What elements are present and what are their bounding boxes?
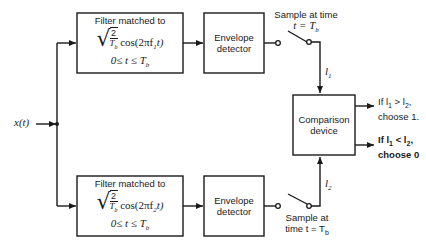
top-filter-range: 0≤ t ≤ Tb <box>77 55 183 71</box>
top-filter-title: Filter matched to <box>77 15 183 26</box>
bottom-switch-blade <box>288 194 307 204</box>
output-choose-0: If l1 < l2, choose 0 <box>378 134 419 160</box>
input-label: x(t) <box>14 117 29 128</box>
output-choose-1: If l1 > l2, choose 1. <box>378 96 419 122</box>
bottom-filter-block: Filter matched to √2Tb cos(2πf2t) 0≤ t ≤… <box>77 178 183 234</box>
bottom-filter-formula: √2Tb cos(2πf2t) <box>77 190 183 217</box>
signal-l1-label: l1 <box>325 66 332 82</box>
bottom-filter-range: 0≤ t ≤ Tb <box>77 218 183 234</box>
bottom-sampler-label: Sample at time t = Tb <box>272 212 342 238</box>
top-filter-formula: √2Tb cos(2πf1t) <box>77 27 183 54</box>
top-sampler-label: Sample at time t = Tb <box>266 9 346 36</box>
signal-l2-label: l2 <box>325 178 332 194</box>
top-envelope-label: Envelopedetector <box>204 32 264 54</box>
bottom-filter-title: Filter matched to <box>77 178 183 189</box>
bottom-envelope-label: Envelopedetector <box>204 195 264 217</box>
junction-dot <box>55 122 59 126</box>
comparison-label: Comparisondevice <box>293 114 355 136</box>
top-filter-block: Filter matched to √2Tb cos(2πf1t) 0≤ t ≤… <box>77 15 183 71</box>
